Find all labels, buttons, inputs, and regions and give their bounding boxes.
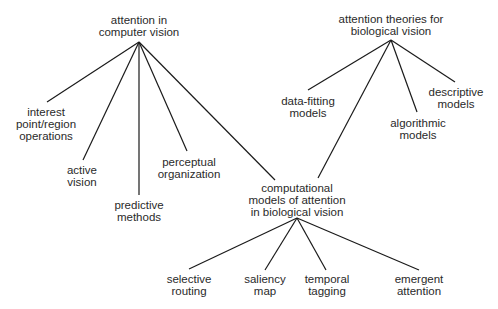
node-label-line: algorithmic — [390, 117, 446, 129]
node-label-line: attention theories for — [339, 13, 444, 25]
node-label-line: selective — [167, 273, 212, 285]
node-tt: temporaltagging — [305, 273, 350, 297]
node-label-line: models — [390, 129, 446, 141]
node-ip: interestpoint/regionoperations — [16, 106, 76, 142]
node-label-line: perceptual — [158, 156, 221, 168]
node-label-line: computer vision — [99, 26, 180, 38]
tree-edge — [139, 42, 187, 151]
node-label-line: models — [281, 107, 335, 119]
node-cm: computationalmodels of attentionin biolo… — [248, 182, 345, 218]
node-label-line: descriptive — [429, 86, 484, 98]
node-label-line: point/region — [16, 118, 76, 130]
tree-edge — [297, 218, 419, 270]
node-label-line: attention in — [99, 14, 180, 26]
node-label-line: in biological vision — [248, 206, 345, 218]
node-label-line: data-fitting — [281, 95, 335, 107]
node-label-line: models — [429, 98, 484, 110]
node-av: activevision — [67, 164, 97, 188]
node-label-line: map — [244, 285, 286, 297]
node-label-line: vision — [67, 176, 97, 188]
node-pm: predictivemethods — [114, 199, 163, 223]
node-label-line: saliency — [244, 273, 286, 285]
tree-edge — [308, 40, 391, 90]
node-bio: attention theories forbiological vision — [339, 13, 444, 37]
node-po: perceptualorganization — [158, 156, 221, 180]
node-label-line: routing — [167, 285, 212, 297]
node-label-line: predictive — [114, 199, 163, 211]
node-sm: saliencymap — [244, 273, 286, 297]
tree-edge — [297, 218, 326, 270]
node-label-line: biological vision — [339, 25, 444, 37]
tree-edge — [391, 40, 417, 112]
node-sr: selectiverouting — [167, 273, 212, 297]
node-label-line: interest — [16, 106, 76, 118]
node-ea: emergentattention — [395, 273, 444, 297]
node-de: descriptivemodels — [429, 86, 484, 110]
node-label-line: models of attention — [248, 194, 345, 206]
node-label-line: organization — [158, 168, 221, 180]
node-label-line: attention — [395, 285, 444, 297]
node-cv: attention incomputer vision — [99, 14, 180, 38]
node-al: algorithmicmodels — [390, 117, 446, 141]
node-df: data-fittingmodels — [281, 95, 335, 119]
node-label-line: temporal — [305, 273, 350, 285]
node-label-line: computational — [248, 182, 345, 194]
diagram-edges — [0, 0, 498, 309]
node-label-line: methods — [114, 211, 163, 223]
node-label-line: tagging — [305, 285, 350, 297]
node-label-line: operations — [16, 130, 76, 142]
node-label-line: active — [67, 164, 97, 176]
tree-edge — [391, 40, 455, 82]
node-label-line: emergent — [395, 273, 444, 285]
